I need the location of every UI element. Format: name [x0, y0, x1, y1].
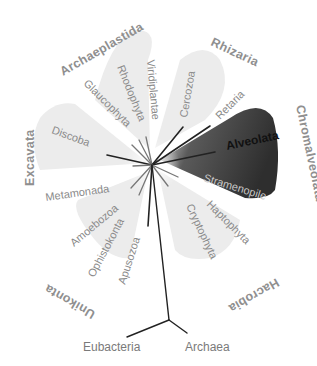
- tree-of-life-diagram: Archaeplastida Rhizaria Chromalveolata H…: [0, 0, 317, 366]
- label-archaea: Archaea: [185, 340, 230, 354]
- label-hacrobia: Hacrobia: [225, 275, 281, 315]
- label-eubacteria: Eubacteria: [83, 340, 141, 354]
- label-chromalveolata: Chromalveolata: [293, 104, 317, 203]
- label-excavata: Excavata: [23, 129, 37, 186]
- label-unikonta: Unikonta: [41, 281, 97, 321]
